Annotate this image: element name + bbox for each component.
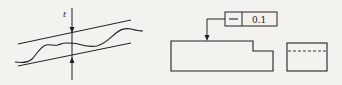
drawing-callout: 0.1 <box>171 12 327 71</box>
leader-arrow-icon <box>205 35 210 41</box>
straightness-tolerance-figure: t 0.1 <box>0 0 342 85</box>
part-front-view <box>171 41 273 71</box>
lower-boundary-line <box>18 43 131 66</box>
arrow-up-icon <box>70 57 75 63</box>
tolerance-label: t <box>63 10 67 19</box>
feature-control-frame: 0.1 <box>225 12 277 26</box>
leader-line <box>207 19 225 36</box>
tolerance-zone-diagram: t <box>15 8 143 80</box>
part-side-view <box>287 43 327 71</box>
upper-boundary-line <box>18 20 131 44</box>
tolerance-value: 0.1 <box>252 15 266 25</box>
actual-profile-curve <box>15 29 143 63</box>
figure-drawing: t 0.1 <box>0 0 342 85</box>
